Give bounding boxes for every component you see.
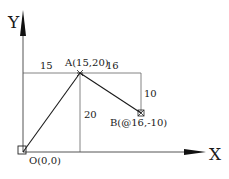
y-axis-arrow-icon	[20, 10, 26, 36]
dimension-20: 20	[84, 109, 97, 120]
point-A-label: A(15,20)	[64, 57, 109, 68]
x-axis-arrow-icon	[184, 149, 206, 155]
dimension-16: 16	[106, 60, 119, 71]
x-axis-label: X	[209, 144, 222, 164]
dimension-15: 15	[40, 60, 53, 71]
dimension-10: 10	[144, 88, 157, 99]
origin-label: O(0,0)	[29, 155, 61, 166]
segment-A-B	[80, 73, 141, 113]
point-B-label: B(@16,-10)	[110, 117, 167, 128]
segment-O-A	[23, 73, 80, 152]
coordinate-diagram: Y X A(15,20) B(@16,-10) O(0,0) 15 16 20 …	[0, 0, 229, 179]
y-axis-label: Y	[7, 12, 20, 32]
